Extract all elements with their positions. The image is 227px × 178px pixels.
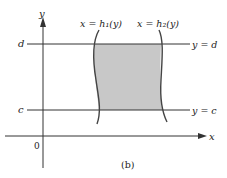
x-axis-arrow-icon [198,133,207,139]
figure-caption: (b) [121,159,135,170]
y-axis-label: y [38,8,45,19]
c-label: c [18,104,24,115]
x-axis-label: x [209,131,215,142]
region-diagram: y x 0 d c y = d y = c x = h₁(y) x = h₂(y… [0,0,227,178]
h1-curve-label: x = h₁(y) [80,18,122,29]
origin-label: 0 [34,141,40,151]
shaded-region [94,44,162,110]
y-equals-d-label: y = d [191,39,217,50]
h2-curve-label: x = h₂(y) [137,18,179,29]
d-label: d [18,38,24,49]
y-equals-c-label: y = c [191,105,217,116]
